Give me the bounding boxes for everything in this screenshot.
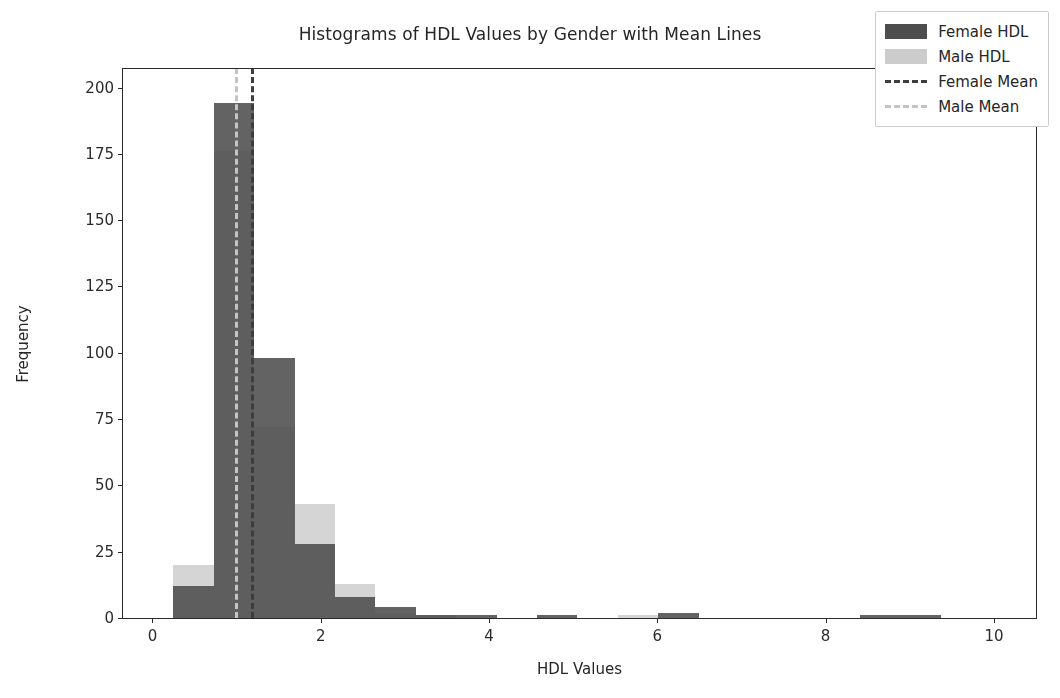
- y-tick-mark: [118, 286, 123, 287]
- x-tick-label: 8: [821, 627, 831, 645]
- legend-item: Male Mean: [885, 94, 1038, 119]
- histogram-bar: [658, 613, 698, 618]
- y-tick-mark: [118, 618, 123, 619]
- mean-line-female: [251, 69, 254, 618]
- legend-item: Female Mean: [885, 69, 1038, 94]
- y-tick-label: 50: [95, 476, 114, 494]
- legend-item: Female HDL: [885, 19, 1038, 44]
- histogram-bar: [173, 586, 213, 618]
- histogram-bar: [254, 358, 294, 618]
- histogram-bar: [456, 615, 496, 618]
- histogram-bar: [537, 615, 577, 618]
- x-tick-mark: [321, 618, 322, 623]
- x-tick-mark: [657, 618, 658, 623]
- histogram-bar: [901, 615, 941, 618]
- y-tick-mark: [118, 88, 123, 89]
- y-tick-label: 125: [85, 277, 114, 295]
- y-tick-label: 200: [85, 79, 114, 97]
- legend-swatch-female-mean: [885, 80, 927, 83]
- histogram-bar: [860, 615, 900, 618]
- x-tick-label: 6: [653, 627, 663, 645]
- x-tick-label: 0: [148, 627, 158, 645]
- x-tick-mark: [826, 618, 827, 623]
- y-tick-mark: [118, 419, 123, 420]
- x-tick-label: 10: [984, 627, 1003, 645]
- plot-axes: 0255075100125150175200 0246810: [122, 68, 1037, 619]
- histogram-bar: [375, 607, 415, 618]
- x-tick-label: 2: [316, 627, 326, 645]
- plot-area: [123, 69, 1036, 618]
- histogram-bar: [295, 544, 335, 618]
- y-axis-label-text: Frequency: [14, 305, 32, 383]
- legend-swatch-female: [885, 24, 927, 39]
- y-tick-mark: [118, 552, 123, 553]
- legend-label: Female Mean: [938, 73, 1038, 91]
- x-tick-mark: [489, 618, 490, 623]
- y-tick-mark: [118, 220, 123, 221]
- chart-legend: Female HDLMale HDLFemale MeanMale Mean: [875, 11, 1049, 127]
- y-tick-mark: [118, 353, 123, 354]
- y-tick-label: 150: [85, 211, 114, 229]
- histogram-bar: [335, 597, 375, 618]
- y-tick-label: 25: [95, 543, 114, 561]
- y-tick-label: 100: [85, 344, 114, 362]
- histogram-bar: [416, 615, 456, 618]
- x-tick-mark: [994, 618, 995, 623]
- y-tick-mark: [118, 154, 123, 155]
- legend-label: Male Mean: [938, 98, 1019, 116]
- x-tick-mark: [152, 618, 153, 623]
- figure-canvas: Histograms of HDL Values by Gender with …: [0, 0, 1060, 698]
- x-tick-label: 4: [484, 627, 494, 645]
- histogram-bar: [618, 615, 658, 618]
- y-tick-label: 175: [85, 145, 114, 163]
- legend-swatch-male: [885, 49, 927, 64]
- y-tick-label: 0: [104, 609, 114, 627]
- y-axis-label: Frequency: [13, 68, 33, 619]
- legend-label: Male HDL: [938, 48, 1009, 66]
- legend-swatch-male-mean: [885, 105, 927, 108]
- y-tick-label: 75: [95, 410, 114, 428]
- y-tick-mark: [118, 485, 123, 486]
- mean-line-male: [235, 69, 238, 618]
- legend-item: Male HDL: [885, 44, 1038, 69]
- x-axis-label: HDL Values: [122, 660, 1037, 678]
- legend-label: Female HDL: [938, 23, 1028, 41]
